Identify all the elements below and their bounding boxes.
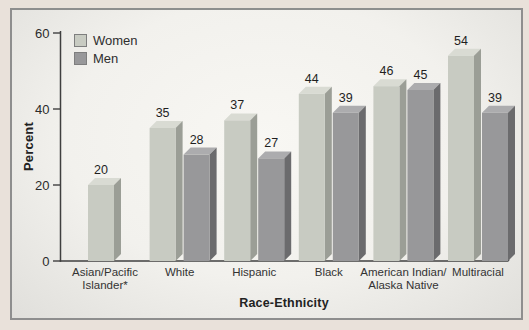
legend-swatch-men-icon: [74, 52, 87, 65]
legend-swatch-women-icon: [74, 34, 87, 47]
bar-men-side-face: [433, 83, 440, 261]
bar-men-side-face: [210, 148, 217, 261]
bar-value-label-women: 54: [454, 34, 468, 48]
y-axis-title: Percent: [21, 87, 36, 207]
y-tick-label: 0: [42, 254, 49, 269]
bar-women-side-face: [114, 178, 121, 261]
bar-men-side-face: [508, 106, 515, 261]
bar-men-side-face: [284, 151, 291, 261]
bar-value-label-men: 28: [190, 133, 204, 147]
bar-women-front-face: [299, 94, 325, 261]
legend-label-women: Women: [93, 34, 138, 47]
chart-figure: 020406020Asian/PacificIslander*3528White…: [10, 8, 523, 320]
bar-value-label-men: 45: [413, 68, 427, 82]
bar-value-label-women: 35: [156, 106, 170, 120]
bar-women-front-face: [150, 128, 176, 261]
bar-value-label-men: 39: [339, 91, 353, 105]
bar-women-side-face: [399, 79, 406, 261]
bar-value-label-women: 37: [230, 98, 244, 112]
bar-women-side-face: [474, 49, 481, 261]
bar-men-front-face: [258, 158, 284, 261]
bar-women-side-face: [325, 87, 332, 261]
bar-women-side-face: [250, 113, 257, 261]
bar-value-label-men: 39: [488, 91, 502, 105]
category-label: White: [165, 266, 194, 278]
legend-item-men: Men: [74, 52, 138, 65]
bar-men-side-face: [359, 106, 366, 261]
category-label: Hispanic: [232, 266, 276, 278]
bar-value-label-women: 20: [94, 163, 108, 177]
x-axis-title: Race-Ethnicity: [144, 296, 424, 310]
bar-women-front-face: [224, 120, 250, 261]
bar-value-label-women: 44: [305, 72, 319, 86]
legend-label-men: Men: [93, 52, 118, 65]
y-tick-label: 40: [35, 102, 49, 117]
bar-men-front-face: [482, 113, 508, 261]
category-label: Black: [315, 266, 343, 278]
category-label: Asian/PacificIslander*: [72, 266, 138, 291]
bar-women-side-face: [176, 121, 183, 261]
legend-item-women: Women: [74, 34, 138, 47]
legend: Women Men: [74, 34, 138, 65]
category-label: American Indian/Alaska Native: [360, 266, 447, 291]
y-tick-label: 60: [35, 26, 49, 41]
bar-men-front-face: [184, 155, 210, 261]
bar-value-label-women: 46: [379, 64, 393, 78]
bar-value-label-men: 27: [264, 136, 278, 150]
bar-women-front-face: [373, 86, 399, 261]
bar-men-front-face: [407, 90, 433, 261]
bar-women-front-face: [448, 56, 474, 261]
category-label: Multiracial: [452, 266, 504, 278]
bar-women-front-face: [88, 185, 114, 261]
y-tick-label: 20: [35, 178, 49, 193]
bar-men-front-face: [333, 113, 359, 261]
